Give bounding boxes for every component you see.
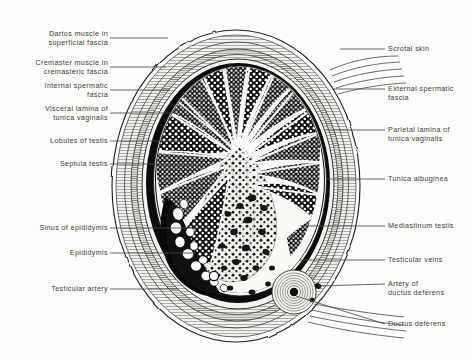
- label-testicular-artery: Testicular artery: [51, 285, 108, 294]
- ductus-deferens-lumen: [290, 288, 298, 296]
- label-external-spermatic-fascia: External spermatic fascia: [388, 85, 454, 102]
- label-tunica-albuginea: Tunica albuginea: [388, 175, 448, 184]
- label-epididymis: Epididymis: [70, 249, 108, 258]
- label-ductus-deferens: Ductus deferens: [388, 320, 446, 329]
- label-parietal-lamina: Parietal lamina of tunica vaginalis: [388, 126, 450, 143]
- label-scrotal-skin: Scrotal skin: [388, 45, 429, 54]
- label-cremaster-muscle: Cremaster muscle in cremasteric fascia: [35, 59, 108, 76]
- label-lobules-of-testis: Lobules of testis: [50, 137, 108, 146]
- label-septula-testis: Septula testis: [60, 160, 108, 169]
- label-artery-of-ductus-deferens: Artery of ductus deferens: [388, 280, 444, 297]
- label-visceral-lamina: Visceral lamina of tunica vaginalis: [45, 105, 108, 122]
- label-internal-spermatic-fascia: Internal spermatic fascia: [45, 82, 108, 99]
- label-dartos-muscle: Dartos muscle in superficial fascia: [49, 30, 108, 47]
- label-mediastinum-testis: Mediastinum testis: [388, 222, 454, 231]
- label-sinus-of-epididymis: Sinus of epididymis: [39, 224, 108, 233]
- label-testicular-veins: Testicular veins: [388, 256, 443, 265]
- testicular-artery: [209, 271, 218, 280]
